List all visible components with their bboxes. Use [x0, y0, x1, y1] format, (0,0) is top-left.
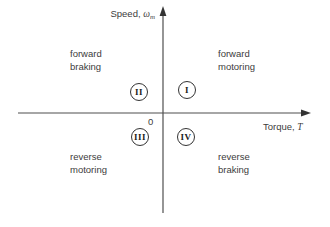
x-axis-label: Torque, T [263, 120, 303, 134]
quadrant-2-label-line1: forward [70, 47, 102, 60]
quadrant-2-label-line2: braking [70, 60, 102, 73]
quadrant-4-numeral-badge: IV [177, 128, 195, 146]
origin-label: 0 [148, 115, 153, 128]
quadrant-1-numeral: I [185, 85, 189, 95]
axes [0, 0, 330, 227]
quadrant-4-label-line2: braking [218, 163, 250, 176]
quadrant-4-label-line1: reverse [218, 150, 250, 163]
x-axis-label-text: Torque, [263, 121, 297, 132]
omega-symbol: ωm [143, 9, 155, 19]
y-axis-arrowhead-icon [160, 6, 167, 16]
torque-symbol: T [297, 122, 302, 132]
quadrant-3-numeral-badge: III [131, 128, 149, 146]
quadrant-3-label-line2: motoring [70, 163, 107, 176]
quadrant-4-label: reverse braking [218, 150, 250, 176]
quadrant-1-label-line1: forward [218, 47, 255, 60]
quadrant-1-label: forward motoring [218, 47, 255, 73]
y-axis-label: Speed, ωm [110, 7, 155, 24]
quadrant-2-label: forward braking [70, 47, 102, 73]
quadrant-3-label-line1: reverse [70, 150, 107, 163]
quadrant-3-numeral: III [134, 132, 146, 142]
y-axis-label-text: Speed, [110, 8, 143, 19]
quadrant-2-numeral-badge: II [130, 83, 148, 101]
quadrant-diagram: Speed, ωm Torque, T 0 forward braking fo… [0, 0, 330, 227]
quadrant-1-label-line2: motoring [218, 60, 255, 73]
quadrant-4-numeral: IV [180, 132, 191, 142]
x-axis-arrowhead-icon [301, 110, 311, 117]
quadrant-3-label: reverse motoring [70, 150, 107, 176]
quadrant-1-numeral-badge: I [178, 81, 196, 99]
quadrant-2-numeral: II [135, 87, 143, 97]
